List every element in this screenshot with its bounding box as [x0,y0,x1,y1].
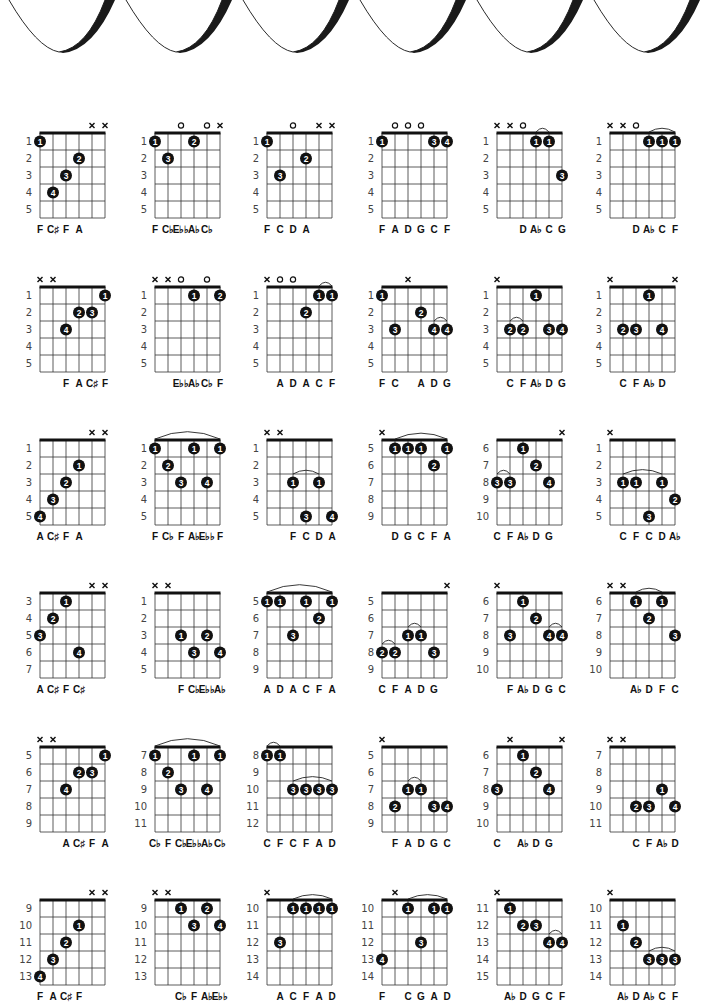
fret-number: 3 [26,170,32,181]
svg-text:1: 1 [330,904,335,914]
nut-bar [382,286,448,289]
svg-text:1: 1 [103,291,108,301]
fret-number: 9 [596,784,602,795]
svg-text:1: 1 [317,478,322,488]
note-label: A [289,684,296,695]
fret-number: 14 [589,971,602,982]
finger-dot: 1 [656,136,668,148]
svg-text:1: 1 [419,444,424,454]
chord-diagram: 6789101234CA♭DG [475,733,593,883]
svg-text:1: 1 [192,444,197,454]
svg-text:3: 3 [419,938,424,948]
nut-bar [497,592,563,595]
finger-dot: 3 [287,784,299,796]
fret-number: 5 [253,596,259,607]
note-label: G [558,224,566,235]
svg-text:4: 4 [205,478,210,488]
svg-text:4: 4 [660,325,665,335]
barre-arc [293,895,332,899]
chord-diagram: 67891012344FA♭DGC [475,579,593,729]
note-label: C♯ [73,684,85,695]
note-label: A♭ [188,378,200,389]
fret-number: 4 [26,187,32,198]
note-label: A [75,531,82,542]
fret-number: 1 [141,136,147,147]
muted-string-icon [406,277,411,282]
fret-number: 2 [26,460,32,471]
fret-number: 4 [26,613,32,624]
fret-number: 1 [253,136,259,147]
svg-text:1: 1 [265,751,270,761]
finger-dot: 4 [376,954,388,966]
note-label: F [290,531,296,542]
note-label: D [632,224,639,235]
finger-dot: 1 [517,596,529,608]
note-label: A [315,838,322,849]
finger-dot: 4 [214,647,226,659]
note-label: F [63,224,69,235]
fret-number: 7 [26,784,32,795]
chord-diagram: 78910111234CFA♭D [588,733,702,883]
svg-text:1: 1 [521,751,526,761]
svg-text:3: 3 [547,325,552,335]
svg-text:4: 4 [38,972,43,982]
note-label: D [532,838,539,849]
svg-text:4: 4 [218,648,223,658]
fret-number: 7 [141,750,147,761]
muted-string-icon [103,890,108,895]
fret-number: 1 [253,443,259,454]
finger-dot: 2 [643,613,655,625]
svg-text:1: 1 [634,597,639,607]
muted-string-icon [445,583,450,588]
finger-dot: 2 [389,647,401,659]
muted-string-icon [608,277,613,282]
svg-text:2: 2 [673,495,678,505]
note-label: A [263,684,270,695]
finger-dot: 4 [556,630,568,642]
nut-bar [382,899,448,902]
svg-text:4: 4 [445,802,450,812]
note-label: A♭ [656,838,668,849]
finger-dot: 1 [441,443,453,455]
open-string-icon [178,123,183,128]
fret-number: 2 [253,153,259,164]
note-label: C [506,378,513,389]
fret-number: 7 [483,767,489,778]
finger-dot: 1 [326,903,338,915]
svg-text:1: 1 [406,631,411,641]
svg-text:3: 3 [534,921,539,931]
svg-text:3: 3 [304,512,309,522]
svg-text:2: 2 [508,325,513,335]
muted-string-icon [166,583,171,588]
note-label: D [328,991,335,1002]
finger-dot: 2 [517,324,529,336]
finger-dot: 4 [201,477,213,489]
finger-dot: 4 [34,971,46,983]
nut-bar [155,592,221,595]
chord-chart: 123451234FC♯FA12345123FC♭E♭♭A♭C♭12345123… [0,0,702,1006]
fret-number: 9 [26,903,32,914]
finger-dot: 1 [214,443,226,455]
fret-number: 4 [253,341,259,352]
fret-number: 1 [368,290,374,301]
finger-dot: 1 [376,136,388,148]
nut-bar [610,746,676,749]
fret-number: 1 [26,443,32,454]
finger-dot: 1 [149,750,161,762]
fretboard-grid [40,132,106,219]
note-label: F [633,531,639,542]
note-label: A♭ [517,531,529,542]
svg-text:4: 4 [445,325,450,335]
fret-number: 13 [476,937,489,948]
fret-number: 5 [26,511,32,522]
svg-text:3: 3 [508,631,513,641]
note-label: G [417,224,425,235]
fret-number: 11 [134,937,147,948]
note-label: C♭ [149,838,161,849]
finger-dot: 4 [543,630,555,642]
finger-dot: 2 [313,613,325,625]
svg-text:3: 3 [291,631,296,641]
finger-dot: 1 [530,136,542,148]
muted-string-icon [608,890,613,895]
nut-bar [155,746,221,749]
